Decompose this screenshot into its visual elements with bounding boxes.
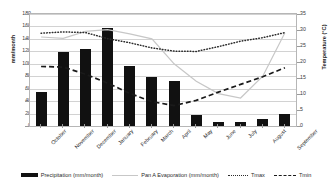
y2-tick-mark xyxy=(297,62,301,63)
series-tmin-line xyxy=(41,66,285,105)
legend-label: Pan A Evaporation (mm/month) xyxy=(141,172,219,179)
y2-tick-mark xyxy=(297,14,301,15)
y2-tick-label: 10 xyxy=(300,91,318,96)
x-label-april: April xyxy=(180,128,192,140)
y2-tick-label: 30 xyxy=(300,27,318,32)
x-label-june: June xyxy=(225,128,238,141)
x-label-january: January xyxy=(116,128,134,146)
dashed-line-swatch-icon xyxy=(274,175,296,176)
y2-tick-mark xyxy=(297,110,301,111)
legend-item-tmax[interactable]: Tmax xyxy=(228,172,265,179)
dotted-line-swatch-icon xyxy=(228,175,248,176)
series-tmax-line xyxy=(41,32,285,52)
climograph-chart: mm/month Temperature (°C) 02040608010012… xyxy=(0,0,332,186)
x-label-september: September xyxy=(296,128,319,151)
y2-tick-mark xyxy=(297,78,301,79)
x-tick-mark xyxy=(217,124,218,128)
x-tick-mark xyxy=(151,124,152,128)
y2-tick-mark xyxy=(297,126,301,127)
x-label-december: December xyxy=(96,128,118,150)
legend-item-precipitation[interactable]: Precipitation (mm/month) xyxy=(21,172,103,179)
legend-label: Tmax xyxy=(251,172,265,179)
y2-tick-label: 35 xyxy=(300,11,318,16)
x-label-july: July xyxy=(246,128,257,139)
chart-legend: Precipitation (mm/month)Pan A Evaporatio… xyxy=(0,168,332,182)
x-tick-mark xyxy=(107,124,108,128)
plot-area xyxy=(29,13,297,127)
x-tick-mark xyxy=(40,124,41,128)
x-label-february: February xyxy=(139,128,159,148)
x-axis-labels: OctoberNovemberDecemberJanuaryFebruaryMa… xyxy=(29,128,297,172)
x-label-august: August xyxy=(271,128,287,144)
y2-tick-label: 0 xyxy=(300,123,318,128)
y-axis-right-title: Temperature (°C) xyxy=(321,12,327,82)
x-tick-mark xyxy=(284,124,285,128)
bar-swatch-icon xyxy=(21,173,38,177)
x-label-may: May xyxy=(202,128,213,139)
x-tick-mark xyxy=(62,124,63,128)
y2-tick-mark xyxy=(297,30,301,31)
y2-tick-mark xyxy=(297,94,301,95)
line-swatch-icon xyxy=(112,175,138,176)
x-tick-mark xyxy=(262,124,263,128)
x-label-october: October xyxy=(50,128,68,146)
x-label-november: November xyxy=(74,128,96,150)
y2-tick-label: 25 xyxy=(300,43,318,48)
y2-tick-label: 5 xyxy=(300,107,318,112)
legend-item-tmin[interactable]: Tmin xyxy=(274,172,311,179)
x-tick-mark xyxy=(84,124,85,128)
line-series-layer xyxy=(30,14,296,126)
x-tick-mark xyxy=(129,124,130,128)
x-tick-mark xyxy=(240,124,241,128)
x-tick-mark xyxy=(195,124,196,128)
y2-tick-mark xyxy=(297,46,301,47)
y2-tick-label: 20 xyxy=(300,59,318,64)
legend-label: Precipitation (mm/month) xyxy=(41,172,103,179)
legend-item-pan[interactable]: Pan A Evaporation (mm/month) xyxy=(112,172,219,179)
y2-tick-label: 15 xyxy=(300,75,318,80)
x-label-march: March xyxy=(159,128,174,143)
legend-label: Tmin xyxy=(299,172,311,179)
x-tick-mark xyxy=(173,124,174,128)
